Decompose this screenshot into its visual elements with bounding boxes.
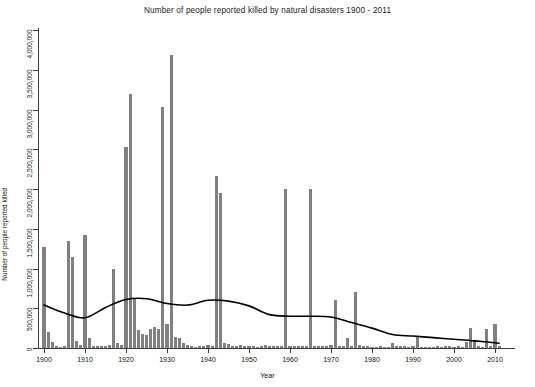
bar [190, 346, 193, 348]
bar [444, 346, 447, 348]
bar [489, 346, 492, 348]
bar [75, 341, 78, 348]
bar [440, 347, 443, 348]
bar [477, 346, 480, 348]
bar [149, 329, 152, 348]
bar [96, 346, 99, 348]
bar [317, 346, 320, 348]
bar [116, 343, 119, 348]
bar [206, 345, 209, 348]
bar [124, 147, 127, 348]
bar [297, 346, 300, 348]
bar [170, 55, 173, 348]
bar [276, 346, 279, 348]
bar [366, 346, 369, 348]
bar [313, 346, 316, 348]
bar [223, 343, 226, 348]
bar [461, 347, 464, 348]
bar [133, 299, 136, 348]
bar [284, 189, 287, 348]
bar [59, 347, 62, 348]
bar [88, 338, 91, 348]
bar [452, 347, 455, 348]
bar [63, 346, 66, 348]
bar [129, 94, 132, 348]
bar [141, 334, 144, 348]
bar [391, 343, 394, 348]
bar [178, 338, 181, 348]
bar [174, 337, 177, 348]
bar [493, 324, 496, 348]
bar [321, 346, 324, 348]
plot-area: 0500,0001,000,0001,500,0002,000,0002,500… [0, 0, 535, 387]
bar [108, 345, 111, 348]
bar [239, 345, 242, 348]
bar [428, 347, 431, 348]
bar [165, 324, 168, 348]
bar [145, 335, 148, 348]
bar [231, 346, 234, 348]
bar [247, 346, 250, 348]
bar [346, 338, 349, 348]
bar [358, 345, 361, 348]
bar [305, 346, 308, 348]
bar [383, 347, 386, 348]
bar [338, 346, 341, 348]
bar [399, 346, 402, 348]
bar [288, 346, 291, 348]
bar [432, 347, 435, 348]
bar [280, 346, 283, 348]
bar [100, 346, 103, 348]
bar [395, 346, 398, 348]
bar [354, 292, 357, 348]
bar [252, 346, 255, 348]
bar [215, 176, 218, 349]
bar [481, 347, 484, 348]
bar [161, 107, 164, 348]
bar [309, 189, 312, 348]
bar [47, 332, 50, 348]
bar [202, 346, 205, 348]
bar [186, 345, 189, 348]
bar [469, 328, 472, 348]
bar [407, 347, 410, 348]
bar [301, 346, 304, 348]
bar [424, 347, 427, 348]
bar-series [0, 0, 535, 387]
bar [325, 346, 328, 348]
bar [268, 346, 271, 348]
bar [157, 329, 160, 348]
bar [473, 340, 476, 348]
bar [293, 346, 296, 348]
bar [198, 346, 201, 348]
bar [342, 346, 345, 348]
chart-container: Number of people reported killed by natu… [0, 0, 535, 387]
bar [67, 241, 70, 348]
bar [256, 347, 259, 348]
bar [416, 336, 419, 348]
bar [436, 346, 439, 348]
bar [260, 346, 263, 348]
bar [387, 347, 390, 348]
bar [120, 345, 123, 348]
bar [370, 347, 373, 348]
bar [350, 346, 353, 348]
bar [83, 235, 86, 348]
bar [219, 193, 222, 348]
bar [375, 347, 378, 348]
bar [334, 300, 337, 348]
bar [485, 329, 488, 348]
bar [264, 345, 267, 348]
bar [457, 346, 460, 348]
bar [51, 342, 54, 348]
bar [243, 346, 246, 348]
bar [211, 346, 214, 348]
bar [153, 327, 156, 348]
bar [55, 346, 58, 348]
bar [448, 346, 451, 348]
bar [71, 257, 74, 348]
bar [362, 346, 365, 348]
bar [104, 346, 107, 348]
bar [420, 347, 423, 348]
bar [42, 247, 45, 348]
